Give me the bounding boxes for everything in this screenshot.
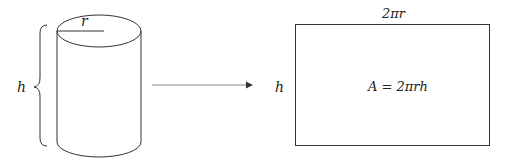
height-brace bbox=[34, 25, 47, 146]
area-formula: A = 2πrh bbox=[368, 80, 428, 93]
arrow-icon bbox=[152, 82, 253, 89]
diagram-graphics bbox=[0, 0, 510, 161]
cylinder bbox=[57, 15, 141, 157]
rectangle-height-label: h bbox=[275, 80, 284, 94]
radius-label: r bbox=[81, 14, 88, 28]
cylinder-surface-area-diagram: r h 2πr h A = 2πrh bbox=[0, 0, 510, 161]
rectangle-width-label: 2πr bbox=[382, 7, 405, 20]
cylinder-height-label: h bbox=[17, 80, 26, 94]
